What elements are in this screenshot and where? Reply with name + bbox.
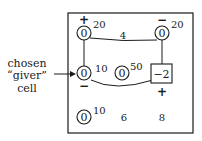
transportation-diagram: 0 + 20 4 0 − 20 0 − 10 0 50 −2 + 0 10 6 … bbox=[0, 0, 202, 141]
label-line-3: cell bbox=[17, 82, 37, 95]
cell-r3c2-cost: 6 bbox=[121, 112, 127, 123]
loop-bottom-edge bbox=[91, 80, 153, 86]
cell-r1c1-cost: 20 bbox=[93, 19, 106, 30]
cell-r1c3-sign: − bbox=[157, 13, 167, 27]
label-line-2: “giver” bbox=[7, 69, 47, 82]
arrow-head-icon bbox=[70, 71, 76, 77]
cell-r2c1-sign: − bbox=[79, 79, 89, 93]
cell-r3c1-cost: 10 bbox=[93, 105, 106, 116]
cell-r2c3-value: −2 bbox=[153, 68, 169, 81]
cell-r2c2-cost: 50 bbox=[130, 61, 143, 72]
cell-r1c2-cost: 4 bbox=[120, 30, 126, 41]
cell-r3c1-value: 0 bbox=[81, 111, 88, 124]
cell-r2c3-sign: + bbox=[157, 85, 167, 99]
cell-r1c1-value: 0 bbox=[81, 27, 88, 40]
cell-r2c1-cost: 10 bbox=[95, 63, 108, 74]
cell-r3c3-cost: 8 bbox=[159, 112, 165, 123]
cell-r1c3-cost: 20 bbox=[171, 19, 184, 30]
cell-r1c3-value: 0 bbox=[159, 27, 166, 40]
cell-r2c2-value: 0 bbox=[119, 67, 126, 80]
cell-r1c1-sign: + bbox=[79, 13, 89, 27]
